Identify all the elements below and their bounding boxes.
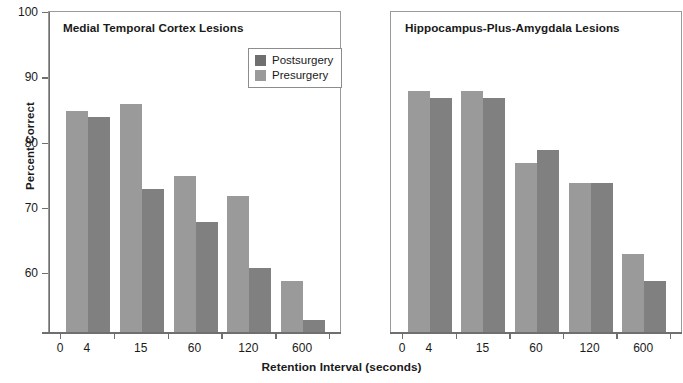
x-tick: [616, 332, 617, 339]
x-tick-label-15: 15: [121, 341, 161, 355]
x-tick-label-120: 120: [228, 341, 268, 355]
x-tick: [275, 332, 276, 339]
x-tick-label-120: 120: [570, 341, 610, 355]
bar-postsurgery-600: [303, 320, 325, 333]
legend-swatch-postsurgery-icon: [255, 55, 266, 66]
bar-postsurgery-60: [537, 150, 559, 333]
x-tick: [563, 332, 564, 339]
y-tick-label-90: 90: [0, 70, 38, 84]
x-tick: [329, 332, 330, 339]
bar-postsurgery-4: [430, 98, 452, 333]
y-tick-label-80: 80: [0, 136, 38, 150]
y-tick-label-60: 60: [0, 266, 38, 280]
x-tick: [60, 332, 61, 339]
figure-bar-chart: Percent Correct 60708090100 Medial Tempo…: [0, 0, 683, 383]
x-axis-line-left: [48, 332, 341, 334]
legend-item-postsurgery: Postsurgery: [255, 53, 333, 68]
x-tick-label-15: 15: [462, 341, 502, 355]
bar-presurgery-60: [174, 176, 196, 333]
bar-presurgery-15: [461, 91, 483, 333]
bar-presurgery-4: [66, 111, 88, 333]
panel-medial-temporal-cortex: Medial Temporal Cortex Lesions Postsurge…: [48, 11, 341, 332]
x-tick-label-600: 600: [282, 341, 322, 355]
x-tick-label-60: 60: [175, 341, 215, 355]
legend-label-presurgery: Presurgery: [272, 70, 328, 81]
x-tick: [221, 332, 222, 339]
panel-hippocampus-plus-amygdala: Hippocampus-Plus-Amygdala Lesions: [390, 11, 682, 332]
x-tick: [670, 332, 671, 339]
bar-postsurgery-4: [88, 117, 110, 333]
bar-postsurgery-120: [591, 183, 613, 333]
bar-presurgery-15: [120, 104, 142, 333]
legend-swatch-presurgery-icon: [255, 70, 266, 81]
x-tick-label-60: 60: [516, 341, 556, 355]
bar-presurgery-60: [515, 163, 537, 333]
legend-label-postsurgery: Postsurgery: [272, 55, 333, 66]
x-tick: [168, 332, 169, 339]
y-tick-label-100: 100: [0, 5, 38, 19]
x-tick: [114, 332, 115, 339]
bar-postsurgery-15: [142, 189, 164, 333]
x-axis-line-right: [390, 332, 682, 334]
x-tick-label-600: 600: [623, 341, 663, 355]
bar-postsurgery-120: [249, 268, 271, 334]
bar-postsurgery-15: [483, 98, 505, 333]
legend-item-presurgery: Presurgery: [255, 68, 333, 83]
bar-presurgery-120: [227, 196, 249, 333]
bar-presurgery-600: [622, 254, 644, 333]
legend: Postsurgery Presurgery: [248, 48, 342, 88]
bar-presurgery-120: [569, 183, 591, 333]
x-tick: [456, 332, 457, 339]
bar-presurgery-600: [281, 281, 303, 334]
x-tick-label-4: 4: [409, 341, 449, 355]
x-tick: [509, 332, 510, 339]
bar-presurgery-4: [408, 91, 430, 333]
x-tick: [402, 332, 403, 339]
bar-postsurgery-60: [196, 222, 218, 333]
x-axis-title: Retention Interval (seconds): [0, 360, 683, 374]
y-tick-label-70: 70: [0, 201, 38, 215]
bar-postsurgery-600: [644, 281, 666, 334]
plot-area-right: [391, 12, 681, 332]
x-tick-label-4: 4: [67, 341, 107, 355]
